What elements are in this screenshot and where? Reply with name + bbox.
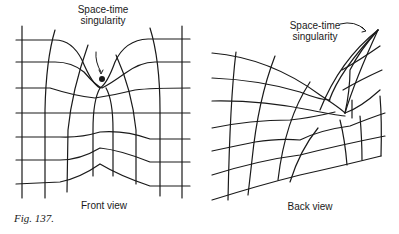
front-annotation-line2: singularity	[70, 15, 136, 26]
front-annotation-label: Space-time singularity	[70, 4, 136, 26]
figure-caption: Fig. 137.	[14, 212, 54, 224]
back-annotation-line1: Space-time	[282, 20, 348, 31]
back-view-title: Back view	[280, 201, 340, 212]
back-view-grid	[212, 30, 385, 200]
front-annotation-arrow	[96, 52, 101, 72]
front-view-grid	[16, 26, 190, 198]
singularity-dot	[99, 76, 105, 82]
back-annotation-line2: singularity	[282, 31, 348, 42]
front-view-title: Front view	[74, 200, 134, 211]
front-annotation-line1: Space-time	[70, 4, 136, 15]
back-annotation-label: Space-time singularity	[282, 20, 348, 42]
